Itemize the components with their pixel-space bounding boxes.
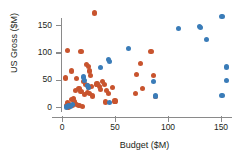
data-point-orange-9 bbox=[74, 76, 79, 81]
data-point-orange-19 bbox=[102, 82, 107, 87]
data-point-orange-21 bbox=[106, 91, 111, 96]
data-point-orange-2 bbox=[78, 49, 83, 54]
data-point-orange-23 bbox=[112, 98, 117, 103]
y-axis-title: US Gross ($M) bbox=[9, 0, 19, 95]
data-point-blue-0 bbox=[176, 26, 181, 31]
data-point-blue-17 bbox=[107, 100, 112, 105]
data-point-orange-1 bbox=[65, 48, 70, 53]
data-point-orange-0 bbox=[92, 10, 97, 15]
data-point-orange-4 bbox=[69, 68, 74, 73]
data-point-blue-2 bbox=[198, 25, 203, 30]
data-point-orange-46 bbox=[133, 91, 138, 96]
data-point-orange-43 bbox=[134, 72, 139, 77]
data-point-blue-20 bbox=[224, 64, 229, 69]
data-point-blue-12 bbox=[86, 85, 91, 90]
data-point-orange-48 bbox=[151, 73, 156, 78]
data-point-orange-47 bbox=[148, 49, 153, 54]
data-point-orange-3 bbox=[63, 75, 68, 80]
data-point-blue-7 bbox=[107, 59, 112, 64]
data-point-orange-22 bbox=[110, 85, 115, 90]
data-point-blue-21 bbox=[224, 78, 229, 83]
data-point-orange-42 bbox=[80, 104, 85, 109]
data-point-blue-10 bbox=[82, 78, 87, 83]
data-point-blue-18 bbox=[153, 93, 158, 98]
data-point-blue-4 bbox=[204, 37, 209, 42]
data-point-orange-45 bbox=[140, 86, 145, 91]
data-point-blue-3 bbox=[219, 14, 224, 19]
x-axis-title: Budget ($M) bbox=[62, 140, 227, 150]
scatter-plot-figure: 050100150050100150 Budget ($M) US Gross … bbox=[0, 0, 239, 163]
data-point-orange-44 bbox=[138, 61, 143, 66]
data-point-blue-22 bbox=[219, 93, 224, 98]
data-point-orange-17 bbox=[98, 87, 103, 92]
data-point-blue-8 bbox=[98, 65, 103, 70]
data-point-blue-5 bbox=[126, 46, 131, 51]
data-point-orange-8 bbox=[88, 73, 93, 78]
data-point-blue-19 bbox=[151, 79, 156, 84]
data-points-layer bbox=[0, 0, 239, 163]
